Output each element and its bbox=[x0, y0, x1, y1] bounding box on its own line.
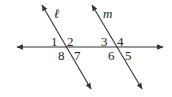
angle-3-label: 3 bbox=[101, 34, 108, 49]
angle-2-label: 2 bbox=[67, 34, 74, 49]
angle-6-label: 6 bbox=[108, 48, 115, 63]
angle-5-label: 5 bbox=[125, 48, 132, 63]
diagram-canvas: ℓ m 1 2 3 4 8 7 6 5 bbox=[0, 0, 172, 97]
angle-4-label: 4 bbox=[117, 34, 124, 49]
line-m-label: m bbox=[103, 6, 112, 21]
angle-1-label: 1 bbox=[51, 34, 58, 49]
line-l-label: ℓ bbox=[54, 6, 60, 21]
angle-8-label: 8 bbox=[58, 48, 65, 63]
angle-7-label: 7 bbox=[74, 48, 81, 63]
